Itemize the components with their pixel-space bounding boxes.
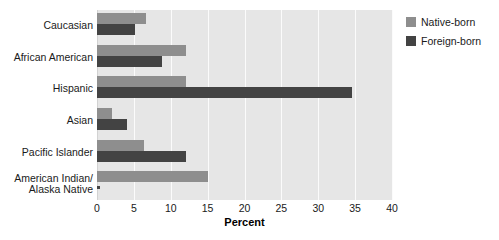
x-axis-tick-label: 35 xyxy=(349,202,361,214)
category-label-line: Alaska Native xyxy=(1,184,93,196)
legend-swatch-icon xyxy=(406,17,416,27)
category-label-line: Caucasian xyxy=(1,20,93,32)
x-axis-title: Percent xyxy=(97,216,392,228)
category-label: American Indian/Alaska Native xyxy=(1,173,93,196)
category-label: African American xyxy=(1,52,93,64)
bar-group xyxy=(97,137,392,169)
x-axis-tick-label: 10 xyxy=(165,202,177,214)
x-axis-tick-label: 25 xyxy=(276,202,288,214)
legend-label: Foreign-born xyxy=(421,35,481,47)
category-label-line: African American xyxy=(1,52,93,64)
x-axis-tick-label: 0 xyxy=(94,202,100,214)
legend-label: Native-born xyxy=(421,16,475,28)
x-axis-tick-label: 30 xyxy=(312,202,324,214)
bar-foreign xyxy=(97,56,162,67)
bar-foreign xyxy=(97,151,186,162)
category-label: Caucasian xyxy=(1,20,93,32)
legend-item: Native-born xyxy=(406,14,481,30)
legend-item: Foreign-born xyxy=(406,33,481,49)
legend: Native-bornForeign-born xyxy=(406,14,481,52)
bar-group xyxy=(97,105,392,137)
x-axis-tick-label: 15 xyxy=(202,202,214,214)
bar-foreign xyxy=(97,24,135,35)
y-axis-category-labels: CaucasianAfrican AmericanHispanicAsianPa… xyxy=(0,10,93,200)
bar-native xyxy=(97,45,186,56)
category-label: Asian xyxy=(1,115,93,127)
bar-group xyxy=(97,10,392,42)
bar-chart: CaucasianAfrican AmericanHispanicAsianPa… xyxy=(0,0,499,240)
bar-foreign xyxy=(97,119,127,130)
bar-native xyxy=(97,108,112,119)
gridline-40 xyxy=(392,10,393,200)
bar-group xyxy=(97,168,392,200)
category-label-line: Asian xyxy=(1,115,93,127)
category-label: Pacific Islander xyxy=(1,147,93,159)
category-label-line: Hispanic xyxy=(1,83,93,95)
bar-foreign xyxy=(97,186,100,189)
bar-native xyxy=(97,13,146,24)
bar-foreign xyxy=(97,87,352,98)
category-label-line: Pacific Islander xyxy=(1,147,93,159)
bar-native xyxy=(97,140,144,151)
x-axis-tick-label: 20 xyxy=(239,202,251,214)
bar-native xyxy=(97,171,208,182)
x-axis-tick-label: 40 xyxy=(386,202,398,214)
legend-swatch-icon xyxy=(406,36,416,46)
plot-area xyxy=(97,10,392,200)
bar-group xyxy=(97,42,392,74)
bar-group xyxy=(97,73,392,105)
x-axis-tick-label: 5 xyxy=(131,202,137,214)
bar-native xyxy=(97,76,186,87)
category-label: Hispanic xyxy=(1,83,93,95)
